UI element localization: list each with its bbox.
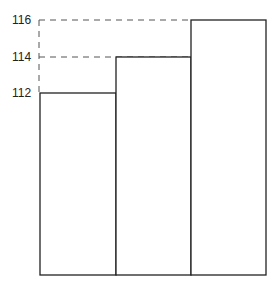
y-tick-116: 116 [12,13,31,27]
y-tick-112: 112 [12,86,31,100]
bar-1 [40,93,116,275]
bar-2 [116,57,191,275]
y-tick-114: 114 [12,50,31,64]
bar-chart: 116 114 112 [0,0,278,287]
bar-3 [191,20,266,275]
